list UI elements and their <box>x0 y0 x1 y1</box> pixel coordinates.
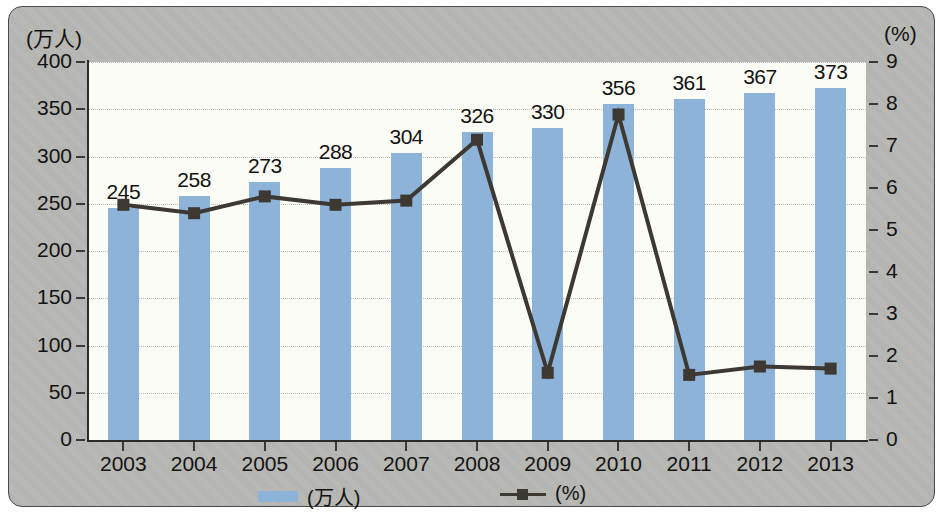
legend-bar-swatch-icon <box>258 491 298 502</box>
y-axis-right-tick-label: 2 <box>886 343 926 367</box>
x-axis-tick-label: 2006 <box>301 452 371 476</box>
y-axis-right-tick <box>869 313 878 315</box>
y-axis-right-tick <box>869 61 878 63</box>
x-axis-tick-label: 2004 <box>159 452 229 476</box>
bar-value-label: 356 <box>583 76 653 100</box>
y-axis-left-tick-label: 400 <box>10 49 72 73</box>
bar <box>108 208 139 440</box>
bar-value-label: 258 <box>159 168 229 192</box>
y-axis-right-tick-label: 9 <box>886 49 926 73</box>
y-axis-left-tick <box>76 250 85 252</box>
legend-item-line: (%) <box>500 482 586 505</box>
x-axis-tick-label: 2007 <box>371 452 441 476</box>
bar <box>462 132 493 440</box>
x-axis-tick-label: 2008 <box>442 452 512 476</box>
y-axis-right-tick-label: 7 <box>886 133 926 157</box>
y-axis-right-tick-label: 8 <box>886 91 926 115</box>
y-axis-left-tick-label: 50 <box>10 380 72 404</box>
y-axis-left-tick-label: 350 <box>10 96 72 120</box>
x-axis-tick-label: 2011 <box>654 452 724 476</box>
y-axis-left-tick <box>76 156 85 158</box>
y-axis-left-tick-label: 300 <box>10 144 72 168</box>
x-axis-tick <box>193 442 195 451</box>
y-axis-left-tick-label: 0 <box>10 427 72 451</box>
y-axis-right-tick <box>869 397 878 399</box>
chart-legend: (万人) (%) <box>0 482 943 510</box>
bar <box>391 153 422 440</box>
y-axis-right-tick <box>869 103 878 105</box>
y-axis-left-title: (万人) <box>26 22 82 52</box>
bar-value-label: 326 <box>442 104 512 128</box>
x-axis-tick-label: 2013 <box>796 452 866 476</box>
y-axis-right-tick <box>869 187 878 189</box>
x-axis-tick <box>688 442 690 451</box>
y-axis-left-tick <box>76 297 85 299</box>
y-axis-right-tick <box>869 439 878 441</box>
bar <box>815 88 846 440</box>
y-axis-right-tick-label: 1 <box>886 385 926 409</box>
x-axis-tick-label: 2005 <box>230 452 300 476</box>
x-axis-tick <box>547 442 549 451</box>
bar-value-label: 330 <box>513 100 583 124</box>
bar <box>179 196 210 440</box>
x-axis-tick <box>830 442 832 451</box>
y-axis-left-tick <box>76 203 85 205</box>
y-axis-right-tick-label: 6 <box>886 175 926 199</box>
bar-value-label: 361 <box>654 71 724 95</box>
x-axis-tick <box>335 442 337 451</box>
y-axis-right-tick <box>869 271 878 273</box>
bar-value-label: 273 <box>230 154 300 178</box>
bar <box>674 99 705 440</box>
x-axis-tick-label: 2009 <box>513 452 583 476</box>
y-axis-right-tick <box>869 355 878 357</box>
bar-value-label: 373 <box>796 60 866 84</box>
y-axis-right-tick-label: 5 <box>886 217 926 241</box>
y-axis-left-tick <box>76 108 85 110</box>
legend-item-bar: (万人) <box>258 482 360 511</box>
legend-line-marker-icon <box>500 488 546 500</box>
y-axis-left-tick-label: 250 <box>10 191 72 215</box>
x-axis-tick <box>759 442 761 451</box>
x-axis-tick <box>405 442 407 451</box>
x-axis-tick-label: 2012 <box>725 452 795 476</box>
y-axis-left-spine <box>87 60 89 442</box>
bar <box>249 182 280 440</box>
chart-figure: (万人) (%) 050100150200250300350400 012345… <box>0 0 943 513</box>
y-axis-left-tick <box>76 439 85 441</box>
y-axis-left-tick-label: 150 <box>10 285 72 309</box>
y-axis-right-tick-label: 3 <box>886 301 926 325</box>
x-axis-tick <box>122 442 124 451</box>
y-axis-right-tick <box>869 145 878 147</box>
gridline <box>88 62 866 63</box>
bar <box>603 104 634 440</box>
bar-value-label: 288 <box>301 140 371 164</box>
y-axis-right-tick <box>869 229 878 231</box>
bar <box>744 93 775 440</box>
legend-item-line-label: (%) <box>555 482 586 505</box>
y-axis-left-tick <box>76 392 85 394</box>
x-axis-tick <box>264 442 266 451</box>
y-axis-left-tick-label: 200 <box>10 238 72 262</box>
bar-value-label: 304 <box>371 125 441 149</box>
bar <box>320 168 351 440</box>
x-axis-tick-label: 2010 <box>583 452 653 476</box>
y-axis-right-title: (%) <box>884 22 917 46</box>
y-axis-right-tick-label: 0 <box>886 427 926 451</box>
legend-item-bar-label: (万人) <box>307 482 360 511</box>
y-axis-left-tick <box>76 345 85 347</box>
x-axis-tick-label: 2003 <box>88 452 158 476</box>
bar-value-label: 245 <box>88 180 158 204</box>
x-axis-tick <box>476 442 478 451</box>
y-axis-right-tick-label: 4 <box>886 259 926 283</box>
bar-value-label: 367 <box>725 65 795 89</box>
bar <box>532 128 563 440</box>
x-axis-tick <box>617 442 619 451</box>
y-axis-left-tick-label: 100 <box>10 333 72 357</box>
y-axis-left-tick <box>76 61 85 63</box>
